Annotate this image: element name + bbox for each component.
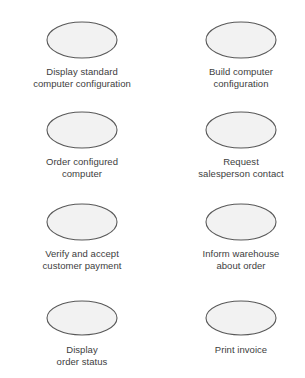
use-case-order-configured-computer[interactable]: Order configured computer xyxy=(12,111,152,180)
use-case-label: Order configured computer xyxy=(46,156,118,180)
use-case-ellipse-icon xyxy=(205,203,277,241)
use-case-ellipse-icon xyxy=(205,299,277,337)
use-case-label: Display standard computer configuration xyxy=(33,66,131,90)
use-case-ellipse-icon xyxy=(46,21,118,59)
use-case-label: Inform warehouse about order xyxy=(203,248,280,272)
use-case-label: Print invoice xyxy=(215,344,267,356)
use-case-display-order-status[interactable]: Display order status xyxy=(12,299,152,368)
use-case-diagram-canvas: Display standard computer configuration … xyxy=(0,0,305,378)
use-case-print-invoice[interactable]: Print invoice xyxy=(171,299,305,356)
use-case-label: Verify and accept customer payment xyxy=(43,248,122,272)
use-case-label: Display order status xyxy=(57,344,108,368)
use-case-verify-and-accept-customer-payment[interactable]: Verify and accept customer payment xyxy=(12,203,152,272)
use-case-build-computer-configuration[interactable]: Build computer configuration xyxy=(171,21,305,90)
use-case-ellipse-icon xyxy=(46,203,118,241)
use-case-label: Request salesperson contact xyxy=(198,156,283,180)
use-case-ellipse-icon xyxy=(205,21,277,59)
use-case-display-standard-computer-configuration[interactable]: Display standard computer configuration xyxy=(12,21,152,90)
use-case-ellipse-icon xyxy=(46,111,118,149)
use-case-ellipse-icon xyxy=(205,111,277,149)
use-case-ellipse-icon xyxy=(46,299,118,337)
use-case-request-salesperson-contact[interactable]: Request salesperson contact xyxy=(171,111,305,180)
use-case-label: Build computer configuration xyxy=(209,66,273,90)
use-case-inform-warehouse-about-order[interactable]: Inform warehouse about order xyxy=(171,203,305,272)
